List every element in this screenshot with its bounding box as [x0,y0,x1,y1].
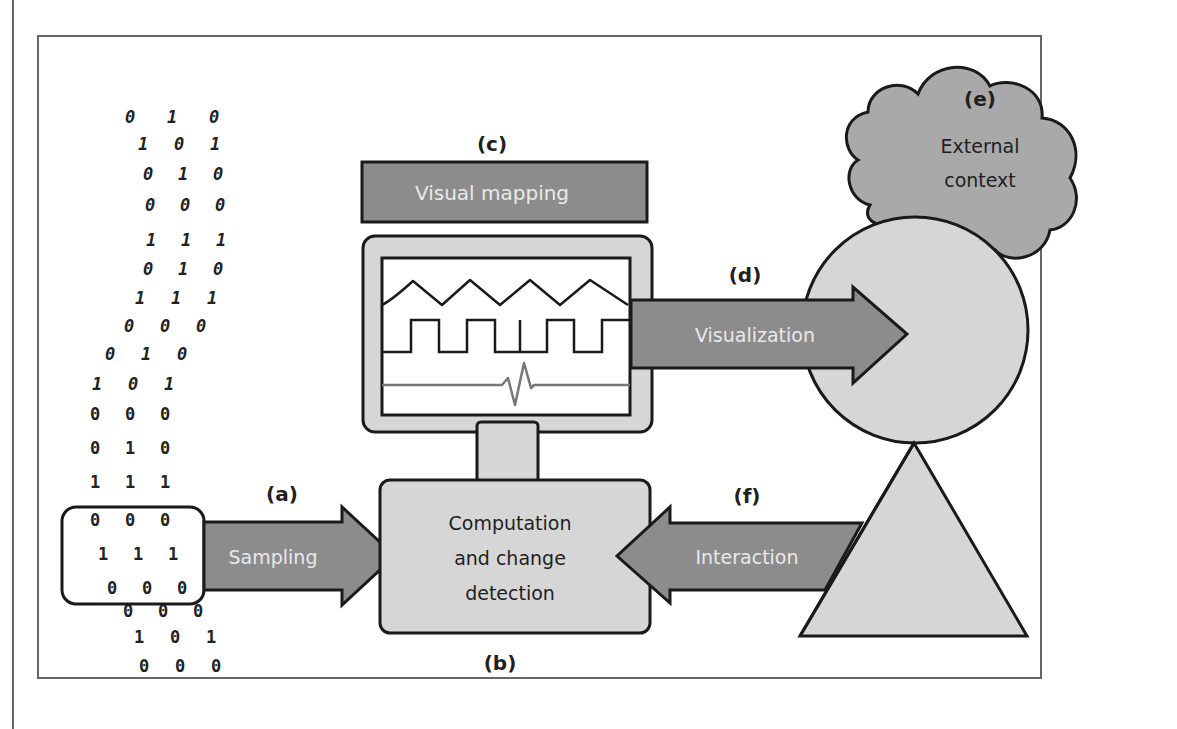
bit-digit: 0 [211,656,221,676]
bit-digit: 0 [143,164,153,184]
bit-digit: 1 [138,134,148,154]
bit-digit: 0 [125,107,135,127]
visual-mapping-label: Visual mapping [415,181,569,205]
computation-label-line2: and change [454,547,566,569]
bit-digit: 1 [164,374,174,394]
bit-digit: 1 [125,438,135,458]
bit-digit: 0 [90,510,100,530]
bit-digit: 0 [160,510,170,530]
external-context-line1: External [941,135,1020,157]
label-f: (f) [734,484,761,508]
bit-digit: 1 [90,472,100,492]
bit-digit: 0 [125,510,135,530]
bit-digit: 0 [143,259,153,279]
bit-digit: 1 [135,288,145,308]
bit-digit: 1 [133,544,143,564]
bit-digit: 1 [206,627,216,647]
bit-digit: 0 [174,134,184,154]
bit-digit: 0 [142,578,152,598]
monitor-stand [477,422,538,482]
bit-digit: 0 [160,438,170,458]
bit-digit: 1 [178,164,188,184]
external-context-line2: context [944,169,1016,191]
bit-digit: 0 [107,578,117,598]
bit-digit: 1 [168,544,178,564]
bit-digit: 1 [207,288,217,308]
bit-digit: 0 [139,656,149,676]
bit-digit: 0 [160,404,170,424]
bit-digit: 1 [98,544,108,564]
bit-digit: 0 [125,404,135,424]
computation-label-line3: detection [465,582,555,604]
bit-digit: 1 [181,230,191,250]
bit-digit: 1 [141,344,151,364]
visualization-arrow-label: Visualization [695,324,815,346]
bit-digit: 1 [125,472,135,492]
label-d: (d) [729,263,762,287]
bit-digit: 0 [145,195,155,215]
bit-digit: 0 [128,374,138,394]
bit-digit: 0 [175,656,185,676]
label-c: (c) [477,132,507,156]
bit-digit: 1 [134,627,144,647]
bit-digit: 0 [180,195,190,215]
bit-digit: 0 [105,344,115,364]
bit-digit: 0 [213,259,223,279]
bit-digit: 0 [209,107,219,127]
bit-digit: 0 [170,627,180,647]
bit-digit: 0 [196,316,206,336]
bit-digit: 1 [160,472,170,492]
bit-digit: 0 [177,578,187,598]
bit-digit: 1 [210,134,220,154]
computation-label-line1: Computation [449,512,572,534]
sampling-arrow-label: Sampling [229,546,318,568]
bit-digit: 1 [167,107,177,127]
bit-digit: 0 [215,195,225,215]
bit-digit: 1 [178,259,188,279]
bit-digit: 0 [90,438,100,458]
bit-digit: 0 [160,316,170,336]
bit-digit: 0 [177,344,187,364]
bit-digit: 0 [213,164,223,184]
interaction-arrow-label: Interaction [695,546,798,568]
label-b: (b) [484,651,517,675]
bit-digit: 1 [146,230,156,250]
label-e: (e) [964,87,996,111]
data-stream-diagram: 0101010100001110101110000101010000101110… [0,0,1177,729]
bit-digit: 1 [92,374,102,394]
bit-digit: 0 [90,404,100,424]
bit-digit: 1 [216,230,226,250]
bit-digit: 0 [124,316,134,336]
bit-digit: 1 [171,288,181,308]
label-a: (a) [266,482,298,506]
